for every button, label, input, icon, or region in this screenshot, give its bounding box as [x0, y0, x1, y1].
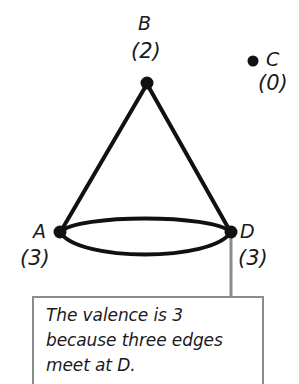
vertex-valence-c: (0) — [258, 73, 288, 94]
callout-line-1: The valence is 3 — [46, 303, 258, 328]
edge-a-d-upper-arc — [60, 219, 231, 233]
callout-text: The valence is 3 because three edges mee… — [46, 303, 258, 378]
vertex-label-c: C — [266, 50, 279, 69]
vertex-label-d: D — [240, 222, 255, 241]
edge-b-d — [147, 84, 230, 231]
edge-b-a — [61, 84, 147, 231]
vertex-dot-c — [248, 56, 259, 67]
vertex-dot-d — [225, 226, 238, 239]
callout-box: The valence is 3 because three edges mee… — [32, 296, 264, 384]
vertex-valence-d: (3) — [238, 248, 268, 269]
vertex-dot-b — [141, 77, 154, 90]
vertex-dot-a — [54, 226, 67, 239]
diagram-page: B (2) C (0) A (3) D (3) The valence is 3… — [0, 0, 299, 384]
callout-line-2: because three edges — [46, 328, 258, 353]
vertex-label-b: B — [138, 14, 151, 33]
vertex-valence-b: (2) — [131, 41, 161, 62]
edge-a-d-lower-arc — [60, 232, 231, 255]
callout-line-3: meet at D. — [46, 353, 258, 378]
vertex-label-a: A — [33, 222, 46, 241]
vertex-valence-a: (3) — [20, 248, 50, 269]
